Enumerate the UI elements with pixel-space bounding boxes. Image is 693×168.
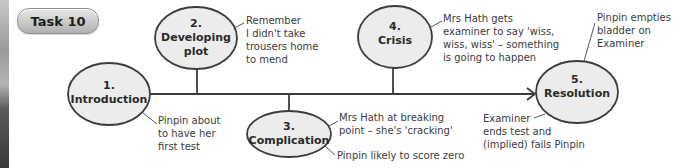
node-title: Crisis [378,34,412,48]
node-number: 3. [283,120,295,134]
node-title: Complication [249,134,330,148]
leader-developing-plot [236,23,244,27]
leader-crisis [431,21,442,27]
note-complication-score-zero: Pinpin likely to score zero [337,149,464,162]
leader-resolution-top [584,23,595,61]
note-introduction: Pinpin about to have her first test [158,114,220,153]
node-number: 5. [571,73,583,87]
node-title: Introduction [71,93,148,107]
note-complication-breaking-point: Mrs Hath at breaking point – she's 'crac… [339,111,453,137]
note-resolution-top: Pinpin empties bladder on Examiner [597,11,671,50]
node-complication: 3. Complication [247,112,331,156]
node-crisis: 4. Crisis [358,14,432,54]
note-resolution-bottom: Examiner ends test and (implied) fails P… [483,112,585,151]
node-title: Resolution [544,87,610,101]
node-number: 2. [190,17,202,31]
note-developing-plot: Remember I didn't take trousers home to … [246,14,318,66]
node-title: Developing plot [161,31,231,59]
node-developing-plot: 2. Developing plot [155,10,237,66]
node-number: 4. [389,20,401,34]
node-introduction: 1. Introduction [68,70,150,116]
note-crisis: Mrs Hath gets examiner to say 'wiss, wis… [443,12,559,64]
node-resolution: 5. Resolution [536,66,618,108]
node-number: 1. [103,79,115,93]
